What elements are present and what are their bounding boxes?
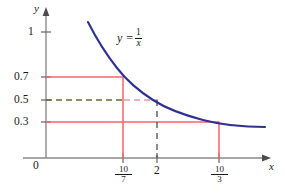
origin-label: 0 bbox=[33, 160, 39, 172]
x-tick-label-10-over-3: 10 3 bbox=[211, 165, 228, 185]
equation-equals-sign: = bbox=[126, 31, 133, 46]
fraction-numerator: 10 bbox=[115, 165, 132, 174]
x-axis-label: x bbox=[269, 161, 274, 172]
guide-lines-dashed bbox=[46, 100, 158, 158]
y-axis-label: y bbox=[34, 3, 39, 14]
fraction-denominator: 7 bbox=[115, 174, 132, 184]
x-tick-label-2: 2 bbox=[154, 165, 160, 177]
y-tick-label-0-7: 0.7 bbox=[14, 71, 28, 83]
y-tick-label-0-5: 0.5 bbox=[14, 94, 28, 106]
fraction-denominator: 3 bbox=[211, 174, 228, 184]
curve-y-equals-one-over-x bbox=[88, 22, 265, 127]
x-tick-label-10-over-7: 10 7 bbox=[115, 165, 132, 185]
y-tick-label-0-3: 0.3 bbox=[14, 116, 28, 128]
fraction-denominator: x bbox=[135, 38, 142, 49]
figure-y-equals-one-over-x: y x 0 1 0.7 0.5 0.3 10 7 2 10 3 y = 1 x bbox=[0, 0, 285, 195]
equation-fraction: 1 x bbox=[135, 28, 142, 49]
fraction-numerator: 1 bbox=[135, 28, 142, 38]
y-tick-label-1: 1 bbox=[28, 26, 34, 38]
axis-group bbox=[23, 7, 271, 161]
fraction-numerator: 10 bbox=[211, 165, 228, 174]
y-axis-arrowhead bbox=[43, 7, 50, 16]
plot-canvas bbox=[0, 0, 285, 195]
equation-lhs: y bbox=[117, 31, 122, 46]
curve-equation-label: y = 1 x bbox=[117, 28, 142, 49]
